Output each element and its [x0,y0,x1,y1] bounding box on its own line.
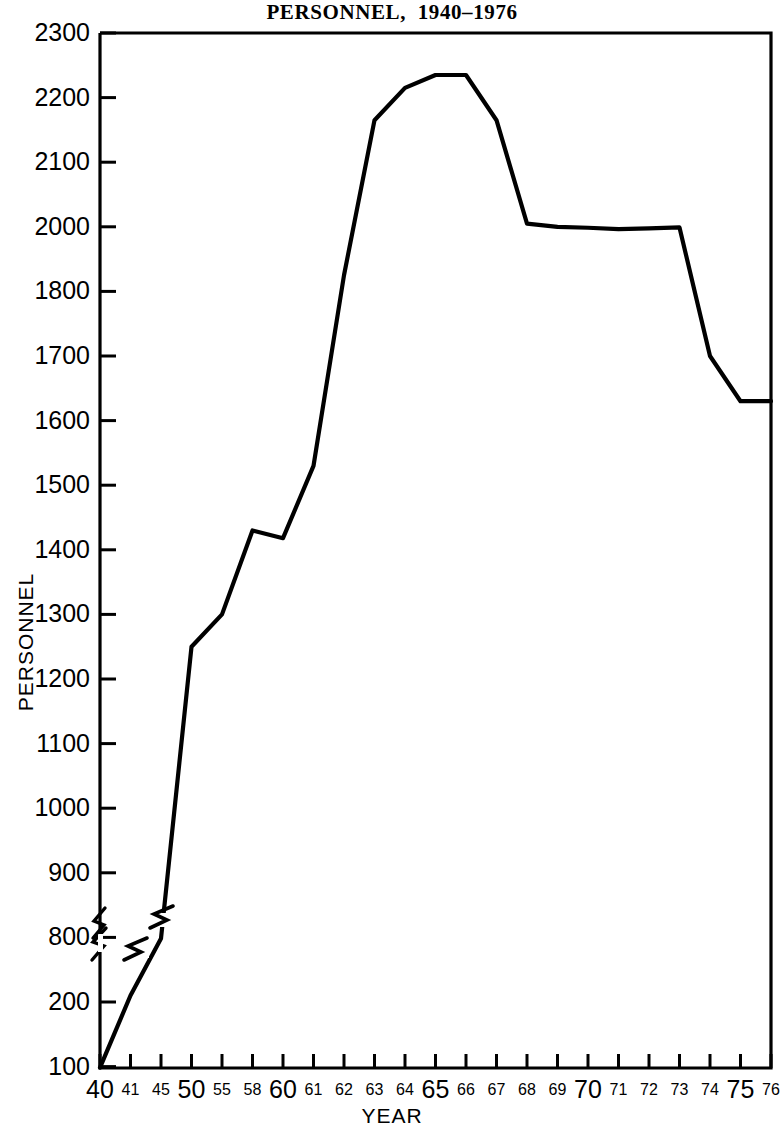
y-tick-label: 100 [2,1054,90,1079]
y-tick-label: 2300 [2,20,90,45]
plot-border [100,33,771,1068]
y-tick-label: 200 [2,989,90,1014]
personnel-line-chart: PERSONNEL, 1940–1976 1002008009001000110… [0,0,784,1136]
y-tick-label: 1000 [2,795,90,820]
x-tick-label: 76 [748,1082,784,1098]
y-tick-label: 1500 [2,472,90,497]
personnel-data-line [100,75,771,1068]
y-tick-label: 1800 [2,278,90,303]
x-axis-title: YEAR [0,1104,784,1128]
y-tick-label: 800 [2,924,90,949]
y-tick-label: 2000 [2,214,90,239]
y-tick-label: 900 [2,860,90,885]
y-tick-label: 1700 [2,343,90,368]
y-tick-label: 2200 [2,85,90,110]
axis-frame [100,33,771,1068]
plot-area [0,0,784,1136]
y-tick-label: 2100 [2,149,90,174]
y-axis-break-mask [98,934,103,952]
data-line-break-marks [124,906,174,960]
x-tick-marks [100,1054,771,1068]
y-axis-title: PERSONNEL [14,542,38,742]
y-tick-label: 1600 [2,408,90,433]
